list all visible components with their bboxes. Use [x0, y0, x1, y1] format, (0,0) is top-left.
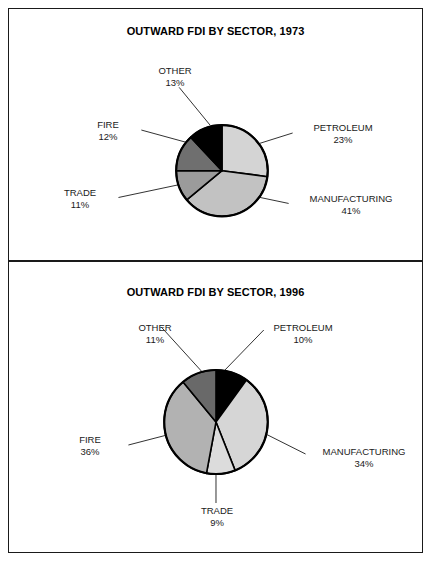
callout-label-trade-1973: TRADE — [47, 187, 113, 199]
callout-value-fire-1973: 12% — [79, 131, 137, 143]
callout-label-petroleum-1996: PETROLEUM — [257, 322, 349, 334]
callout-trade-1973: TRADE 11% — [47, 187, 113, 210]
callout-value-petroleum-1973: 23% — [297, 134, 389, 146]
figure-frame: OUTWARD FDI BY SECTOR, 1973 — [8, 8, 423, 553]
callout-label-manufacturing-1996: MANUFACTURING — [309, 446, 419, 458]
pie-slices-1996 — [164, 370, 268, 474]
callout-other-1996: OTHER 11% — [117, 322, 193, 345]
callout-value-manufacturing-1973: 41% — [293, 205, 409, 217]
callout-value-trade-1996: 9% — [184, 517, 250, 529]
callout-label-other-1973: OTHER — [137, 65, 213, 77]
chart-panel-1973: OUTWARD FDI BY SECTOR, 1973 — [9, 9, 422, 262]
callout-trade-1996: TRADE 9% — [184, 505, 250, 528]
callout-label-other-1996: OTHER — [117, 322, 193, 334]
leader-line-other-1973 — [179, 87, 210, 125]
callout-manufacturing-1996: MANUFACTURING 34% — [309, 446, 419, 469]
leader-line-fire-1973 — [141, 130, 192, 144]
callout-value-trade-1973: 11% — [47, 199, 113, 211]
callout-fire-1973: FIRE 12% — [79, 119, 137, 142]
leader-line-petroleum-1973 — [255, 133, 293, 145]
callout-label-trade-1996: TRADE — [184, 505, 250, 517]
callout-value-other-1996: 11% — [117, 334, 193, 346]
callout-value-petroleum-1996: 10% — [257, 334, 349, 346]
callout-petroleum-1996: PETROLEUM 10% — [257, 322, 349, 345]
callout-label-manufacturing-1973: MANUFACTURING — [293, 193, 409, 205]
callout-other-1973: OTHER 13% — [137, 65, 213, 88]
pie-slices-1973 — [176, 125, 268, 216]
chart-panel-1996: OUTWARD FDI BY SECTOR, 1996 — [9, 262, 422, 552]
callout-label-fire-1996: FIRE — [61, 434, 119, 446]
callout-manufacturing-1973: MANUFACTURING 41% — [293, 193, 409, 216]
callout-label-fire-1973: FIRE — [79, 119, 137, 131]
callout-value-fire-1996: 36% — [61, 446, 119, 458]
callout-value-manufacturing-1996: 34% — [309, 458, 419, 470]
callout-fire-1996: FIRE 36% — [61, 434, 119, 457]
callout-value-other-1973: 13% — [137, 77, 213, 89]
callout-petroleum-1973: PETROLEUM 23% — [297, 122, 389, 145]
pie-slice-petroleum-1973 — [222, 125, 268, 177]
leader-line-trade-1973 — [118, 184, 184, 198]
callout-label-petroleum-1973: PETROLEUM — [297, 122, 389, 134]
